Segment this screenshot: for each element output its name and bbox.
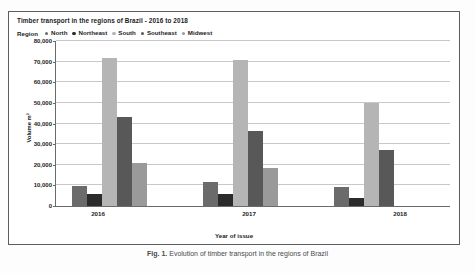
plot-wrapper: 010,00020,00030,00040,00050,00060,00070,… [9, 12, 459, 244]
bar-south-2016[interactable] [102, 58, 117, 207]
bar-northeast-2016[interactable] [87, 194, 102, 206]
figure-label: Fig. 1. [147, 250, 167, 257]
x-axis-tick-label-2017: 2017 [183, 210, 314, 217]
figure-caption-text: Evolution of timber transport in the reg… [169, 250, 328, 257]
bar-southeast-2018[interactable] [379, 150, 394, 206]
y-axis-tick-label: 40,000 [34, 121, 52, 127]
y-axis-tick-label: 50,000 [34, 100, 52, 106]
y-axis-tick-label: 60,000 [34, 79, 52, 85]
figure-caption: Fig. 1. Evolution of timber transport in… [0, 250, 475, 273]
x-axis-tick-label-2018: 2018 [334, 210, 465, 217]
bar-northeast-2017[interactable] [218, 194, 233, 206]
bars [334, 41, 409, 206]
bar-north-2018[interactable] [334, 187, 349, 206]
bar-group-2017: 2017 [187, 41, 318, 206]
bar-groups: 201620172018 [56, 41, 450, 206]
bar-south-2018[interactable] [364, 103, 379, 206]
bar-southeast-2017[interactable] [248, 131, 263, 206]
y-axis-tick-label: 0 [49, 203, 52, 209]
bar-north-2016[interactable] [72, 186, 87, 206]
plot-area: 010,00020,00030,00040,00050,00060,00070,… [55, 41, 450, 207]
bar-northeast-2018[interactable] [349, 198, 364, 206]
scanned-page: Timber transport in the regions of Brazi… [0, 0, 475, 273]
y-axis-tick-label: 70,000 [34, 59, 52, 65]
y-axis-tick-mark [53, 206, 56, 207]
x-axis-title: Year of issue [9, 232, 459, 239]
y-axis-tick-label: 30,000 [34, 141, 52, 147]
bar-group-2018: 2018 [319, 41, 450, 206]
bar-southeast-2016[interactable] [117, 117, 132, 206]
chart-container: Timber transport in the regions of Brazi… [8, 11, 460, 245]
x-axis-tick-label-2016: 2016 [32, 210, 163, 217]
bar-north-2017[interactable] [203, 182, 218, 206]
y-axis-tick-label: 20,000 [34, 162, 52, 168]
bars [203, 41, 278, 206]
bar-group-2016: 2016 [56, 41, 187, 206]
bar-midwest-2017[interactable] [263, 168, 278, 206]
y-axis-tick-label: 80,000 [34, 38, 52, 44]
bar-midwest-2016[interactable] [132, 163, 147, 206]
bar-south-2017[interactable] [233, 60, 248, 206]
y-axis-tick-label: 10,000 [34, 182, 52, 188]
bars [72, 41, 147, 206]
